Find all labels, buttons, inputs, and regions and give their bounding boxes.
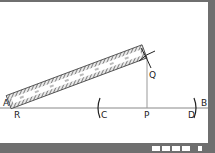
label-p: P — [144, 110, 150, 120]
construction-diagram: A R C P D B Q — [0, 0, 215, 153]
label-c: C — [101, 110, 107, 120]
step-indicator — [152, 146, 212, 153]
ruler — [6, 45, 147, 109]
label-a: A — [3, 98, 10, 108]
label-q: Q — [149, 70, 156, 80]
label-b: B — [201, 98, 207, 108]
label-d: D — [188, 110, 195, 120]
label-r: R — [14, 110, 20, 120]
